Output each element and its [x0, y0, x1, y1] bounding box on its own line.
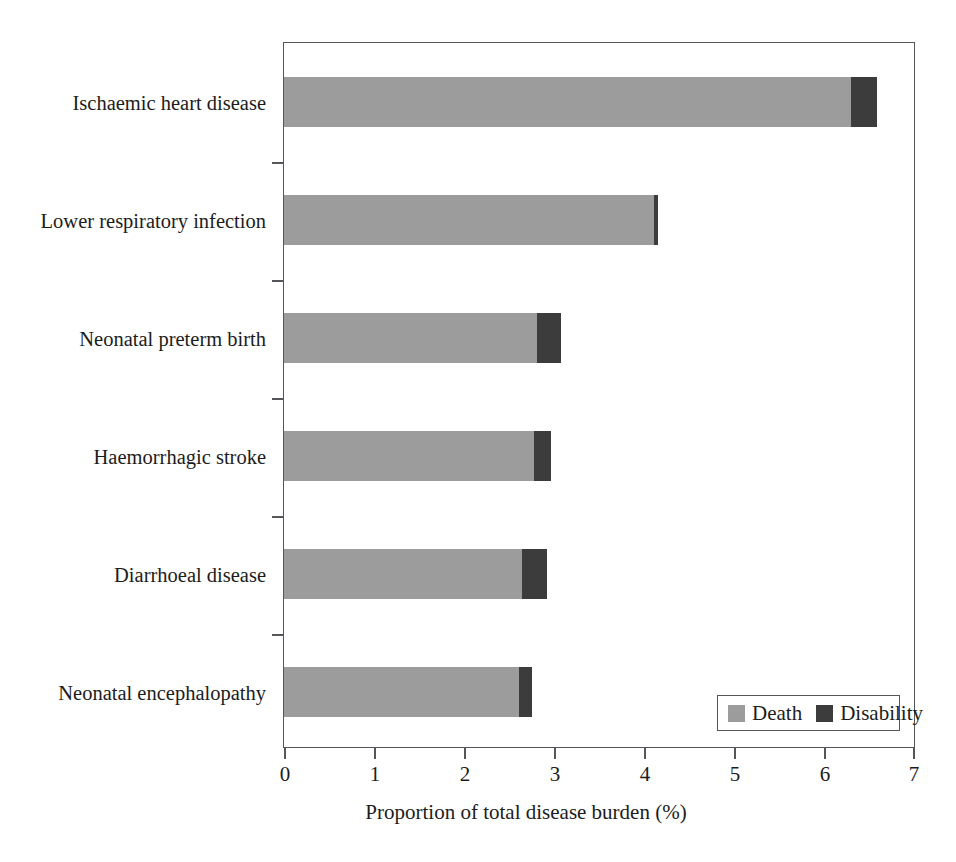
y-axis-label-0: Ischaemic heart disease: [72, 93, 266, 114]
legend-entry-death: Death: [728, 703, 802, 724]
x-axis-title: Proportion of total disease burden (%): [0, 800, 956, 825]
bar-segment-death: [284, 549, 522, 599]
bar-haemorrhagic-stroke: [284, 431, 551, 481]
bar-segment-disability: [851, 77, 877, 127]
x-axis-tick-5: [734, 748, 736, 759]
y-axis-tick-1: [272, 162, 283, 164]
legend-entry-disability: Disability: [816, 703, 923, 724]
death-swatch-icon: [728, 705, 745, 722]
legend-label-death: Death: [752, 703, 802, 724]
chart-legend: Death Disability: [717, 695, 900, 731]
bar-segment-death: [284, 313, 537, 363]
y-axis-tick-5: [272, 634, 283, 636]
bar-segment-disability: [522, 549, 547, 599]
x-axis-tick-label-1: 1: [355, 764, 395, 785]
x-axis-tick-label-3: 3: [535, 764, 575, 785]
bar-neonatal-encephalopathy: [284, 667, 532, 717]
bar-lower-respiratory-infection: [284, 195, 658, 245]
bar-neonatal-preterm-birth: [284, 313, 561, 363]
bar-segment-disability: [519, 667, 532, 717]
bar-segment-death: [284, 195, 654, 245]
y-axis-tick-3: [272, 398, 283, 400]
x-axis-tick-3: [554, 748, 556, 759]
x-axis-tick-6: [824, 748, 826, 759]
x-axis-tick-label-2: 2: [445, 764, 485, 785]
horizontal-stacked-bar-chart: Ischaemic heart disease Lower respirator…: [0, 0, 956, 862]
x-axis-tick-2: [464, 748, 466, 759]
bar-segment-disability: [654, 195, 658, 245]
x-axis-tick-label-7: 7: [894, 764, 934, 785]
x-axis-tick-7: [913, 748, 915, 759]
x-axis-tick-0: [284, 748, 286, 759]
bars-layer: [284, 43, 914, 747]
y-axis-label-2: Neonatal preterm birth: [79, 329, 266, 350]
disability-swatch-icon: [816, 705, 833, 722]
bar-segment-death: [284, 431, 534, 481]
bar-ischaemic-heart-disease: [284, 77, 877, 127]
legend-label-disability: Disability: [840, 703, 923, 724]
y-axis-label-3: Haemorrhagic stroke: [94, 447, 266, 468]
x-axis-tick-label-4: 4: [625, 764, 665, 785]
y-axis-label-1: Lower respiratory infection: [41, 211, 266, 232]
bar-segment-disability: [534, 431, 551, 481]
x-axis-tick-label-6: 6: [805, 764, 845, 785]
x-axis-tick-label-0: 0: [265, 764, 305, 785]
x-axis-tick-1: [374, 748, 376, 759]
y-axis-tick-4: [272, 516, 283, 518]
y-axis-tick-2: [272, 280, 283, 282]
plot-area: Death Disability: [283, 42, 915, 748]
x-axis-tick-4: [644, 748, 646, 759]
x-axis-tick-label-5: 5: [715, 764, 755, 785]
bar-segment-death: [284, 77, 851, 127]
bar-segment-death: [284, 667, 519, 717]
y-axis-label-4: Diarrhoeal disease: [114, 565, 266, 586]
y-axis-label-5: Neonatal encephalopathy: [58, 683, 266, 704]
bar-diarrhoeal-disease: [284, 549, 547, 599]
bar-segment-disability: [537, 313, 561, 363]
